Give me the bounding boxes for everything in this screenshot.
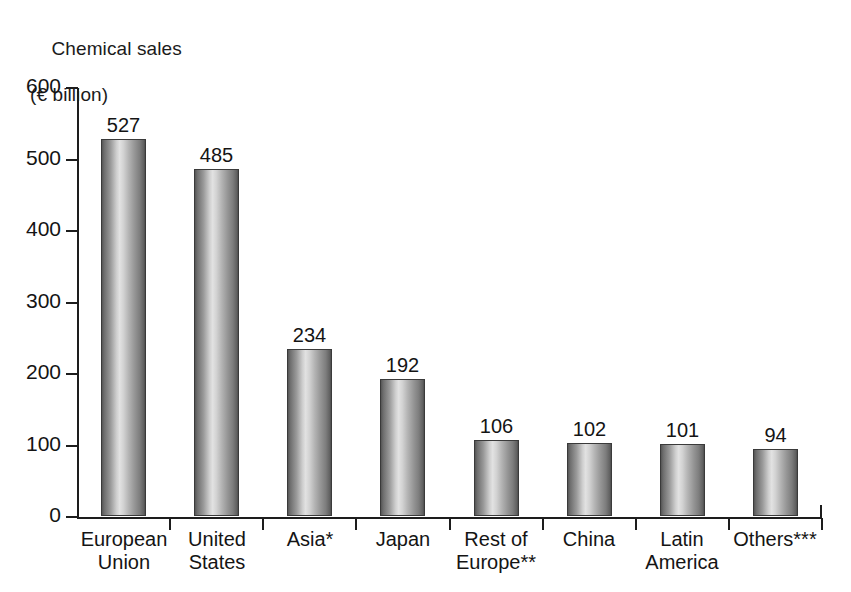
bar-value-label: 94 bbox=[764, 425, 786, 446]
y-axis-tick: 500 bbox=[66, 159, 78, 161]
chart-title-line-1: Chemical sales bbox=[52, 38, 182, 59]
x-axis-category-label: China bbox=[563, 528, 615, 551]
bar-value-label: 527 bbox=[107, 115, 140, 136]
x-axis-end-tick bbox=[820, 505, 822, 518]
bar-value-label: 234 bbox=[293, 325, 326, 346]
y-axis-tick: 600 bbox=[66, 87, 78, 89]
bar-value-label: 106 bbox=[480, 416, 513, 437]
y-axis-tick-label: 200 bbox=[26, 361, 61, 383]
category-label-line-1: Asia* bbox=[287, 528, 334, 550]
y-axis-tick-label: 600 bbox=[26, 75, 61, 97]
y-axis-tick-label: 300 bbox=[26, 290, 61, 312]
category-label-line-2: America bbox=[645, 551, 718, 574]
bar: 527 bbox=[101, 139, 146, 516]
category-label-line-1: China bbox=[563, 528, 615, 550]
x-axis-tick bbox=[542, 518, 544, 530]
x-axis-tick bbox=[635, 518, 637, 530]
x-axis-tick bbox=[449, 518, 451, 530]
y-axis-tick: 300 bbox=[66, 302, 78, 304]
bar: 102 bbox=[567, 443, 612, 516]
y-axis-tick-label: 400 bbox=[26, 218, 61, 240]
y-axis-tick: 0 bbox=[66, 516, 78, 518]
x-axis-category-label: LatinAmerica bbox=[645, 528, 718, 574]
bar-value-label: 101 bbox=[666, 420, 699, 441]
category-label-line-1: Others*** bbox=[733, 528, 816, 550]
bar: 106 bbox=[474, 440, 519, 516]
x-axis-tick bbox=[728, 518, 730, 530]
category-label-line-1: United bbox=[188, 528, 246, 550]
y-axis-tick: 400 bbox=[66, 230, 78, 232]
category-label-line-1: European bbox=[81, 528, 168, 550]
bar: 485 bbox=[194, 169, 239, 516]
bar: 101 bbox=[660, 444, 705, 516]
y-axis-tick-label: 500 bbox=[26, 147, 61, 169]
x-axis-category-label: UnitedStates bbox=[188, 528, 246, 574]
x-axis-tick bbox=[262, 518, 264, 530]
category-label-line-1: Latin bbox=[660, 528, 703, 550]
category-label-line-2: Europe** bbox=[456, 551, 536, 574]
x-axis-tick bbox=[355, 518, 357, 530]
category-label-line-2: States bbox=[188, 551, 246, 574]
bar-value-label: 192 bbox=[386, 355, 419, 376]
x-axis-category-label: Others*** bbox=[733, 528, 816, 551]
y-axis-tick: 100 bbox=[66, 445, 78, 447]
bar-value-label: 102 bbox=[573, 419, 606, 440]
x-axis-category-label: EuropeanUnion bbox=[81, 528, 168, 574]
x-axis-category-label: Japan bbox=[376, 528, 431, 551]
x-axis-tick bbox=[821, 518, 823, 530]
y-axis-tick-label: 100 bbox=[26, 433, 61, 455]
y-axis-tick-label: 0 bbox=[49, 504, 61, 526]
x-axis-category-label: Asia* bbox=[287, 528, 334, 551]
category-label-line-2: Union bbox=[81, 551, 168, 574]
x-axis-category-label: Rest ofEurope** bbox=[456, 528, 536, 574]
plot-area: 6005004003002001000 52748523419210610210… bbox=[77, 88, 822, 517]
bar-value-label: 485 bbox=[200, 145, 233, 166]
category-label-line-1: Rest of bbox=[464, 528, 527, 550]
x-axis-tick bbox=[169, 518, 171, 530]
bar-chart: Chemical sales (€ billion) 6005004003002… bbox=[0, 0, 851, 592]
bar: 192 bbox=[380, 379, 425, 516]
y-axis-tick: 200 bbox=[66, 373, 78, 375]
bar: 94 bbox=[753, 449, 798, 516]
category-label-line-1: Japan bbox=[376, 528, 431, 550]
bar: 234 bbox=[287, 349, 332, 516]
